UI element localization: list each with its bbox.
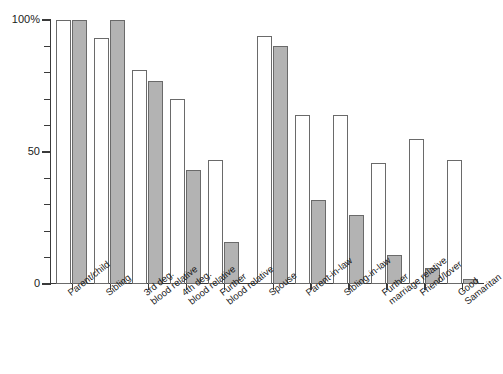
x-tick — [310, 284, 311, 290]
bar-filled — [148, 81, 163, 284]
bar-filled — [311, 200, 326, 284]
bar-group — [447, 20, 478, 284]
bar-group — [409, 20, 440, 284]
bar-group — [132, 20, 163, 284]
x-tick — [424, 284, 425, 290]
bar-open — [295, 115, 310, 284]
bar-group — [257, 20, 288, 284]
x-tick — [224, 284, 225, 290]
bar-open — [257, 36, 272, 284]
x-axis-labels: Parent/childSibling3rd deg. blood relati… — [0, 286, 495, 374]
y-tick — [44, 72, 50, 73]
x-tick — [386, 284, 387, 290]
y-tick — [42, 283, 51, 284]
bar-group — [170, 20, 201, 284]
bar-open — [94, 38, 109, 284]
x-tick — [72, 284, 73, 290]
y-tick — [44, 231, 50, 232]
bar-open — [170, 99, 185, 284]
y-tick — [44, 125, 50, 126]
bar-group — [208, 20, 239, 284]
y-tick-label: 50 — [0, 146, 40, 157]
bar-filled — [110, 20, 125, 284]
bar-open — [132, 70, 147, 284]
bar-group — [94, 20, 125, 284]
bar-group — [371, 20, 402, 284]
y-tick — [44, 204, 50, 205]
y-tick — [42, 19, 51, 20]
plot-area — [52, 20, 484, 284]
bar-group — [295, 20, 326, 284]
x-tick — [186, 284, 187, 290]
y-tick — [44, 257, 50, 258]
y-tick — [42, 151, 51, 152]
bar-filled — [72, 20, 87, 284]
bar-filled — [273, 46, 288, 284]
x-tick — [110, 284, 111, 290]
y-tick — [44, 178, 50, 179]
bar-open — [56, 20, 71, 284]
x-tick — [462, 284, 463, 290]
y-tick — [44, 99, 50, 100]
y-tick — [44, 46, 50, 47]
x-tick — [148, 284, 149, 290]
y-tick-label: 100% — [0, 14, 40, 25]
bar-group — [56, 20, 87, 284]
x-tick — [348, 284, 349, 290]
x-tick — [273, 284, 274, 290]
bar-group — [333, 20, 364, 284]
